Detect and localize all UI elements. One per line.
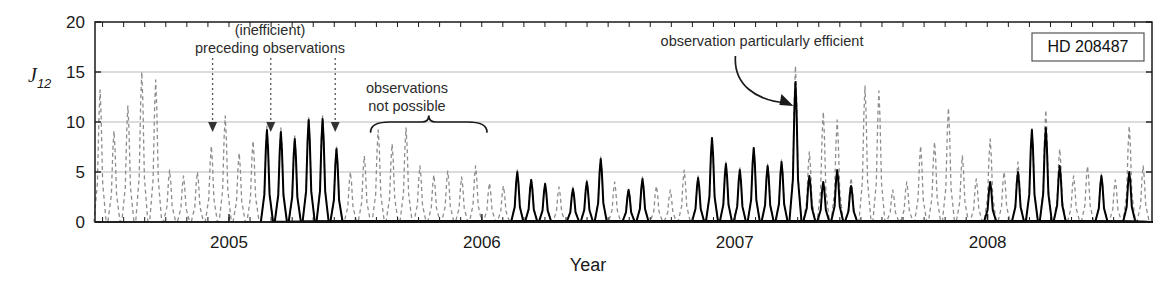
y-tick-label-15: 15 (66, 63, 85, 82)
legend-box: HD 208487 (1032, 33, 1144, 61)
annotation-notpossible-line1: observations (366, 80, 448, 96)
y-tick-label-10: 10 (66, 113, 85, 132)
legend-target-name: HD 208487 (1048, 38, 1129, 55)
annotation-notpossible-line2: not possible (368, 98, 445, 114)
x-tick-label-2008: 2008 (969, 233, 1007, 252)
x-tick-label-2006: 2006 (463, 233, 501, 252)
x-tick-label-2007: 2007 (716, 233, 754, 252)
x-axis-title: Year (570, 255, 606, 275)
x-tick-label-2005: 2005 (210, 233, 248, 252)
annotation-efficient-line1: observation particularly efficient (661, 33, 864, 49)
annotation-inefficient-line1: (inefficient) (235, 22, 306, 38)
y-axis-title-subscript: 12 (37, 76, 52, 91)
y-tick-label-5: 5 (76, 163, 85, 182)
y-tick-label-20: 20 (66, 13, 85, 32)
y-tick-label-0: 0 (76, 213, 85, 232)
j12-observation-efficiency-chart: 05101520 2005200620072008 J12 Year (inef… (0, 0, 1176, 290)
annotation-inefficient-line2: preceding observations (195, 40, 345, 56)
